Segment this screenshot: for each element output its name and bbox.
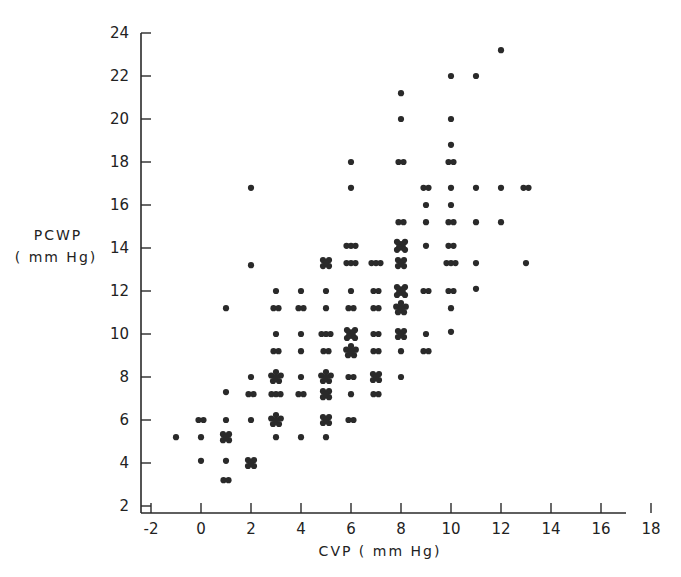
data-point (320, 348, 331, 354)
data-point (370, 348, 381, 354)
data-point (273, 434, 279, 440)
data-point (394, 284, 408, 298)
data-point (370, 391, 381, 397)
data-point (420, 288, 431, 294)
x-tick-label: 18 (641, 520, 660, 538)
data-point (220, 477, 231, 483)
data-point (498, 47, 504, 53)
x-tick-label: 0 (196, 520, 206, 538)
data-point (268, 391, 283, 397)
y-tick-label: 14 (110, 239, 129, 257)
data-point (248, 417, 254, 423)
data-point (423, 243, 429, 249)
y-tick-label: 2 (119, 497, 129, 515)
data-point (345, 305, 356, 311)
data-point (298, 331, 304, 337)
data-point (273, 288, 279, 294)
scatter-chart: 24681012141618202224-2024681012141618 CV… (0, 0, 681, 577)
data-point (248, 185, 254, 191)
data-point (295, 305, 306, 311)
data-point (320, 388, 332, 400)
y-tick-label: 6 (119, 411, 129, 429)
data-point (245, 457, 257, 469)
x-tick-label: 12 (491, 520, 510, 538)
data-point (445, 243, 456, 249)
data-point (448, 329, 454, 335)
data-point (395, 219, 406, 225)
data-point (370, 305, 381, 311)
data-point (398, 116, 404, 122)
data-point (423, 219, 429, 225)
x-tick-label: 10 (441, 520, 460, 538)
data-point (420, 185, 431, 191)
data-point (473, 260, 479, 266)
data-point (420, 348, 431, 354)
y-tick-label: 24 (110, 24, 129, 42)
data-point (345, 417, 356, 423)
y-tick-label: 22 (110, 67, 129, 85)
data-point (448, 305, 454, 311)
data-point (343, 343, 359, 358)
data-point (343, 260, 358, 266)
data-point (448, 142, 454, 148)
data-point (248, 262, 254, 268)
data-point (520, 185, 531, 191)
y-axis-title-line1: PCWP (34, 227, 83, 243)
x-tick-label: 16 (591, 520, 610, 538)
data-point (398, 348, 404, 354)
data-point (448, 185, 454, 191)
data-point (323, 288, 329, 294)
data-point (295, 391, 306, 397)
data-point (248, 374, 254, 380)
data-point (370, 371, 382, 383)
data-point (223, 389, 229, 395)
data-point (348, 288, 354, 294)
x-tick-label: 6 (346, 520, 356, 538)
data-point (245, 391, 256, 397)
data-points (173, 47, 532, 483)
data-point (368, 260, 383, 266)
data-point (318, 331, 333, 337)
data-point (273, 331, 279, 337)
data-point (498, 185, 504, 191)
data-point (370, 288, 381, 294)
y-axis-title-line2: ( mm Hg) (15, 249, 98, 265)
x-tick-label: 2 (246, 520, 256, 538)
data-point (320, 257, 332, 269)
data-point (198, 458, 204, 464)
data-point (318, 369, 334, 384)
data-point (395, 159, 406, 165)
y-tick-label: 16 (110, 196, 129, 214)
data-point (298, 288, 304, 294)
data-point (344, 327, 358, 341)
data-point (445, 288, 456, 294)
data-point (220, 431, 232, 443)
data-point (448, 116, 454, 122)
data-point (195, 417, 206, 423)
axes (141, 33, 626, 513)
data-point (320, 414, 332, 426)
data-point (348, 185, 354, 191)
data-point (323, 305, 329, 311)
data-point (223, 305, 229, 311)
data-point (268, 369, 284, 384)
data-point (348, 391, 354, 397)
data-point (395, 328, 407, 340)
data-point (223, 458, 229, 464)
data-point (445, 219, 456, 225)
data-point (323, 434, 329, 440)
data-point (473, 73, 479, 79)
data-point (523, 260, 529, 266)
x-tick-label: 4 (296, 520, 306, 538)
data-point (473, 185, 479, 191)
data-point (270, 348, 281, 354)
data-point (448, 202, 454, 208)
data-point (423, 202, 429, 208)
data-point (394, 239, 408, 253)
data-point (445, 159, 456, 165)
y-tick-label: 10 (110, 325, 129, 343)
data-point (395, 257, 407, 269)
data-point (398, 374, 404, 380)
x-tick-label: -2 (144, 520, 159, 538)
data-point (348, 159, 354, 165)
